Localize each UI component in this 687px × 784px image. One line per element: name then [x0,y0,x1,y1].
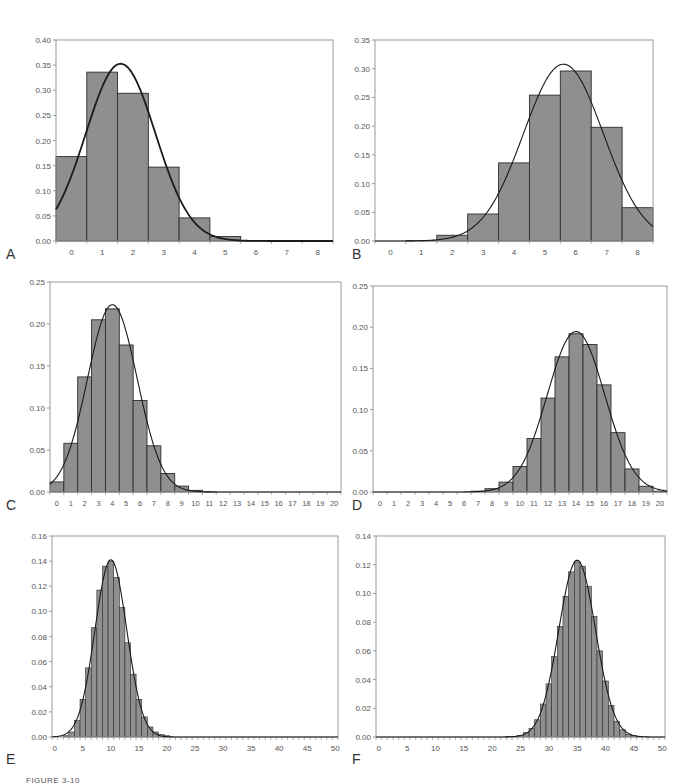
x-tick-label: 5 [543,248,548,257]
y-tick-label: 0.35 [35,61,51,70]
y-tick-label: 0.10 [31,607,47,616]
x-tick-label: 16 [600,499,608,508]
x-tick-label: 30 [544,744,553,753]
x-tick-label: 10 [431,744,440,753]
y-tick-label: 0.00 [354,237,370,246]
figure-caption: FIGURE 3-10 [26,776,80,784]
panel-label-b: B [352,246,361,262]
x-tick-label: 3 [161,248,166,257]
bar [597,385,611,492]
x-tick-label: 12 [544,499,552,508]
charts-canvas: 0.000.050.100.150.200.250.300.350.400123… [0,0,687,784]
y-tick-label: 0.20 [29,320,45,329]
bar [114,577,120,737]
chart-c: 0.000.050.100.150.200.250123456789101112… [29,278,341,508]
bars [406,71,653,241]
y-tick-label: 0.00 [35,237,51,246]
bar [119,608,125,737]
y-tick-label: 0.20 [352,323,368,332]
x-tick-label: 0 [377,744,382,753]
x-tick-label: 4 [434,499,438,508]
y-tick-label: 0.04 [355,676,371,685]
bar [563,596,569,737]
bar [118,93,149,241]
y-axis: 0.000.050.100.150.200.250.300.35 [354,36,375,246]
bar [87,72,118,241]
bar [580,566,586,737]
bar [574,562,580,737]
x-tick-label: 15 [586,499,594,508]
bar [586,586,592,737]
x-tick-label: 14 [572,499,580,508]
x-tick-label: 0 [388,248,393,257]
x-tick-label: 8 [635,248,640,257]
bars [471,334,667,492]
chart-d: 0.000.050.100.150.200.250123456789101112… [352,282,667,508]
y-tick-label: 0.14 [31,557,47,566]
y-tick-label: 0.25 [352,282,368,291]
y-tick-label: 0.10 [352,406,368,415]
x-tick-label: 9 [504,499,508,508]
x-tick-label: 3 [96,499,100,508]
bar [499,163,530,241]
x-tick-label: 45 [629,744,638,753]
bar [80,699,86,737]
x-tick-label: 8 [166,499,170,508]
normal-curve [376,560,665,737]
bar [148,167,179,241]
bar [437,235,468,241]
x-tick-label: 4 [192,248,197,257]
x-tick-label: 6 [574,248,579,257]
x-tick-label: 18 [628,499,636,508]
bar [56,157,87,241]
x-tick-label: 17 [614,499,622,508]
plot-frame [376,536,665,737]
y-tick-label: 0.15 [352,364,368,373]
y-tick-label: 0.16 [31,532,47,541]
y-tick-label: 0.10 [35,187,51,196]
x-tick-label: 4 [512,248,517,257]
y-tick-label: 0.00 [31,733,47,742]
x-tick-label: 11 [205,499,213,508]
x-tick-label: 18 [302,499,310,508]
x-tick-label: 45 [303,744,312,753]
bar [527,438,541,492]
y-axis: 0.000.050.100.150.200.25 [352,282,373,497]
x-axis: 05101520253035404550 [376,737,667,753]
y-tick-label: 0.10 [354,180,370,189]
y-tick-label: 0.05 [35,212,51,221]
x-tick-label: 1 [419,248,424,257]
bar [105,309,119,492]
chart-b: 0.000.050.100.150.200.250.300.3501234567… [354,36,653,257]
y-tick-label: 0.12 [355,561,371,570]
y-tick-label: 0.05 [354,208,370,217]
bar [529,95,560,241]
bar [625,469,639,492]
x-tick-label: 13 [233,499,241,508]
y-tick-label: 0.15 [354,151,370,160]
x-axis: 012345678 [56,241,333,257]
x-tick-label: 50 [331,744,340,753]
figure: 0.000.050.100.150.200.250.300.350.400123… [0,0,687,784]
x-tick-label: 16 [274,499,282,508]
bar [540,704,546,737]
y-tick-label: 0.05 [352,447,368,456]
y-axis: 0.000.050.100.150.200.25 [29,278,50,497]
x-tick-label: 6 [462,499,466,508]
bars [63,561,170,737]
bars [50,309,216,492]
y-tick-label: 0.10 [355,589,371,598]
x-tick-label: 2 [406,499,410,508]
y-tick-label: 0.02 [31,708,47,717]
x-tick-label: 0 [378,499,382,508]
x-tick-label: 0 [55,499,59,508]
y-tick-label: 0.06 [31,658,47,667]
x-tick-label: 13 [558,499,566,508]
y-tick-label: 0.40 [35,36,51,45]
x-axis: 01234567891011121314151617181920 [50,492,341,508]
y-tick-label: 0.02 [355,704,371,713]
y-tick-label: 0.08 [355,618,371,627]
x-tick-label: 3 [420,499,424,508]
x-tick-label: 19 [316,499,324,508]
y-tick-label: 0.20 [35,137,51,146]
